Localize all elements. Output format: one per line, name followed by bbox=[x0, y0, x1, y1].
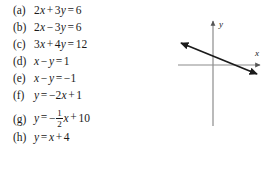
fraction-one-half: 12 bbox=[56, 109, 63, 129]
plotted-line bbox=[181, 43, 257, 74]
item-label-g: (g) bbox=[13, 113, 34, 125]
page-root: (a) 2x+3y=6 (b) 2x−3y=6 (c) 3x+4y=12 (d)… bbox=[0, 0, 271, 170]
item-label-f: (f) bbox=[13, 89, 34, 101]
list-item: (g) y=−12x+10 bbox=[13, 106, 163, 131]
coordinate-plane-graph: y x bbox=[168, 14, 268, 139]
equation-c: 3x+4y=12 bbox=[34, 38, 87, 50]
equation-g: y=−12x+10 bbox=[34, 109, 90, 129]
equation-d: x−y=1 bbox=[34, 55, 70, 67]
list-item: (b) 2x−3y=6 bbox=[13, 21, 163, 38]
fraction-denominator: 2 bbox=[56, 119, 63, 129]
item-label-d: (d) bbox=[13, 55, 34, 67]
list-item: (a) 2x+3y=6 bbox=[13, 4, 163, 21]
equation-h: y=x+4 bbox=[34, 131, 70, 143]
equation-f: y=−2x+1 bbox=[34, 89, 82, 101]
y-axis-label: y bbox=[218, 19, 223, 29]
equation-e: x−y=−1 bbox=[34, 72, 76, 84]
item-label-h: (h) bbox=[13, 131, 34, 143]
item-label-b: (b) bbox=[13, 21, 34, 33]
x-axis-label: x bbox=[254, 48, 259, 58]
list-item: (e) x−y=−1 bbox=[13, 72, 163, 89]
list-item: (c) 3x+4y=12 bbox=[13, 38, 163, 55]
list-item: (f) y=−2x+1 bbox=[13, 89, 163, 106]
item-label-a: (a) bbox=[13, 4, 34, 16]
linear-equations-list: (a) 2x+3y=6 (b) 2x−3y=6 (c) 3x+4y=12 (d)… bbox=[13, 4, 163, 148]
list-item: (d) x−y=1 bbox=[13, 55, 163, 72]
equation-b: 2x−3y=6 bbox=[34, 21, 82, 33]
fraction-numerator: 1 bbox=[56, 109, 63, 119]
item-label-c: (c) bbox=[13, 38, 34, 50]
item-label-e: (e) bbox=[13, 72, 34, 84]
list-item: (h) y=x+4 bbox=[13, 131, 163, 148]
equation-a: 2x+3y=6 bbox=[34, 4, 82, 16]
